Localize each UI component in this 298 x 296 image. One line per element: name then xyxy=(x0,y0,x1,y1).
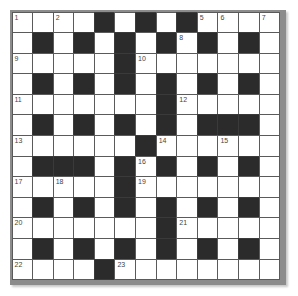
answer-cell[interactable] xyxy=(73,135,95,157)
answer-cell[interactable] xyxy=(73,176,95,198)
answer-cell[interactable] xyxy=(156,53,178,75)
answer-cell[interactable] xyxy=(53,53,75,75)
answer-cell[interactable] xyxy=(259,238,281,260)
answer-cell[interactable] xyxy=(176,53,198,75)
answer-cell[interactable] xyxy=(176,156,198,178)
answer-cell[interactable] xyxy=(135,259,157,281)
answer-cell[interactable]: 15 xyxy=(217,135,239,157)
answer-cell[interactable] xyxy=(53,114,75,136)
answer-cell[interactable] xyxy=(197,259,219,281)
answer-cell[interactable] xyxy=(238,94,260,116)
answer-cell[interactable] xyxy=(217,238,239,260)
answer-cell[interactable] xyxy=(217,176,239,198)
answer-cell[interactable] xyxy=(73,94,95,116)
answer-cell[interactable] xyxy=(238,53,260,75)
answer-cell[interactable] xyxy=(135,73,157,95)
answer-cell[interactable] xyxy=(135,94,157,116)
answer-cell[interactable]: 16 xyxy=(135,156,157,178)
answer-cell[interactable] xyxy=(135,238,157,260)
answer-cell[interactable] xyxy=(176,114,198,136)
answer-cell[interactable]: 18 xyxy=(53,176,75,198)
answer-cell[interactable] xyxy=(217,217,239,239)
answer-cell[interactable] xyxy=(135,114,157,136)
answer-cell[interactable]: 12 xyxy=(176,94,198,116)
answer-cell[interactable] xyxy=(94,53,116,75)
answer-cell[interactable]: 1 xyxy=(12,12,34,34)
answer-cell[interactable] xyxy=(12,114,34,136)
answer-cell[interactable] xyxy=(94,94,116,116)
answer-cell[interactable] xyxy=(32,217,54,239)
answer-cell[interactable] xyxy=(135,32,157,54)
answer-cell[interactable]: 2 xyxy=(53,12,75,34)
answer-cell[interactable]: 21 xyxy=(176,217,198,239)
answer-cell[interactable] xyxy=(217,32,239,54)
answer-cell[interactable] xyxy=(176,176,198,198)
answer-cell[interactable] xyxy=(238,176,260,198)
answer-cell[interactable] xyxy=(12,238,34,260)
answer-cell[interactable] xyxy=(114,135,136,157)
answer-cell[interactable]: 5 xyxy=(197,12,219,34)
answer-cell[interactable]: 19 xyxy=(135,176,157,198)
answer-cell[interactable] xyxy=(12,197,34,219)
answer-cell[interactable]: 8 xyxy=(176,32,198,54)
answer-cell[interactable] xyxy=(259,94,281,116)
answer-cell[interactable] xyxy=(176,135,198,157)
answer-cell[interactable] xyxy=(53,217,75,239)
answer-cell[interactable] xyxy=(135,217,157,239)
answer-cell[interactable] xyxy=(259,259,281,281)
answer-cell[interactable] xyxy=(114,12,136,34)
answer-cell[interactable] xyxy=(197,217,219,239)
answer-cell[interactable] xyxy=(156,259,178,281)
answer-cell[interactable] xyxy=(12,73,34,95)
answer-cell[interactable] xyxy=(94,135,116,157)
answer-cell[interactable] xyxy=(94,217,116,239)
answer-cell[interactable]: 17 xyxy=(12,176,34,198)
answer-cell[interactable] xyxy=(12,156,34,178)
answer-cell[interactable] xyxy=(12,32,34,54)
answer-cell[interactable] xyxy=(32,12,54,34)
answer-cell[interactable] xyxy=(217,53,239,75)
answer-cell[interactable] xyxy=(197,53,219,75)
answer-cell[interactable] xyxy=(73,259,95,281)
answer-cell[interactable] xyxy=(259,197,281,219)
answer-cell[interactable] xyxy=(94,197,116,219)
answer-cell[interactable] xyxy=(53,238,75,260)
answer-cell[interactable]: 9 xyxy=(12,53,34,75)
answer-cell[interactable]: 14 xyxy=(156,135,178,157)
answer-cell[interactable] xyxy=(94,73,116,95)
answer-cell[interactable] xyxy=(259,53,281,75)
answer-cell[interactable] xyxy=(32,135,54,157)
answer-cell[interactable] xyxy=(259,156,281,178)
answer-cell[interactable] xyxy=(197,176,219,198)
answer-cell[interactable] xyxy=(32,94,54,116)
answer-cell[interactable] xyxy=(238,135,260,157)
answer-cell[interactable]: 23 xyxy=(114,259,136,281)
answer-cell[interactable] xyxy=(94,114,116,136)
answer-cell[interactable] xyxy=(114,94,136,116)
answer-cell[interactable] xyxy=(73,12,95,34)
answer-cell[interactable] xyxy=(259,32,281,54)
answer-cell[interactable] xyxy=(73,53,95,75)
answer-cell[interactable] xyxy=(73,217,95,239)
answer-cell[interactable] xyxy=(156,176,178,198)
answer-cell[interactable]: 7 xyxy=(259,12,281,34)
answer-cell[interactable] xyxy=(94,156,116,178)
answer-cell[interactable] xyxy=(176,73,198,95)
answer-cell[interactable] xyxy=(259,217,281,239)
answer-cell[interactable]: 20 xyxy=(12,217,34,239)
answer-cell[interactable] xyxy=(53,259,75,281)
answer-cell[interactable] xyxy=(32,176,54,198)
answer-cell[interactable] xyxy=(259,73,281,95)
answer-cell[interactable] xyxy=(53,135,75,157)
answer-cell[interactable] xyxy=(156,12,178,34)
answer-cell[interactable]: 13 xyxy=(12,135,34,157)
answer-cell[interactable] xyxy=(176,197,198,219)
answer-cell[interactable] xyxy=(94,238,116,260)
answer-cell[interactable]: 6 xyxy=(217,12,239,34)
answer-cell[interactable] xyxy=(217,259,239,281)
answer-cell[interactable] xyxy=(217,197,239,219)
answer-cell[interactable] xyxy=(238,12,260,34)
answer-cell[interactable] xyxy=(217,73,239,95)
answer-cell[interactable] xyxy=(114,217,136,239)
answer-cell[interactable] xyxy=(238,217,260,239)
